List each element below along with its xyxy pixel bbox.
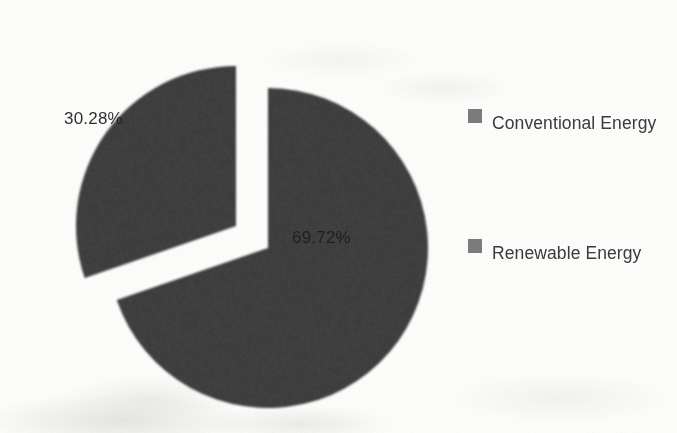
legend-swatch-icon-renewable [468, 239, 482, 253]
legend-label-conventional: Conventional Energy [492, 104, 656, 142]
legend-item-conventional[interactable]: Conventional Energy [468, 104, 673, 142]
pie-chart: 30.28% 69.72% Conventional Energy Renewa… [0, 0, 677, 433]
data-label-renewable: 69.72% [292, 228, 351, 248]
legend-swatch-icon-conventional [468, 109, 482, 123]
legend-label-renewable: Renewable Energy [492, 234, 641, 272]
legend-item-renewable[interactable]: Renewable Energy [468, 234, 673, 272]
chart-legend: Conventional Energy Renewable Energy [468, 104, 673, 272]
data-label-conventional: 30.28% [64, 109, 123, 129]
pie-slice-conventional [76, 66, 236, 278]
